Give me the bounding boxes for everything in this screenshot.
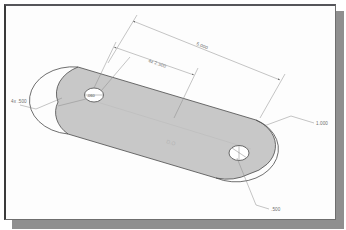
dim-line-overall bbox=[133, 21, 280, 80]
dim-label-hole-spacing: 4x 2.500 bbox=[148, 58, 167, 69]
ext-line-left-overall bbox=[108, 15, 137, 63]
leader-tail-hole-depth bbox=[256, 205, 269, 209]
leader-line-thickness bbox=[264, 116, 291, 126]
cad-drawing-screenshot: 5.000 4x 2.500 4x .500 1.000 bbox=[0, 0, 346, 230]
part-geometry bbox=[29, 67, 278, 182]
drawing-sheet: 5.000 4x 2.500 4x .500 1.000 bbox=[4, 4, 336, 220]
dim-label-hole-depth: .500 bbox=[271, 207, 281, 212]
dim-label-corner-radius: 4x .500 bbox=[11, 99, 27, 104]
leader-tail-corner-radius bbox=[20, 105, 36, 109]
leader-tail-thickness bbox=[291, 116, 314, 123]
leader-corner-radius: 4x .500 bbox=[11, 98, 62, 109]
dim-label-thickness: 1.000 bbox=[316, 121, 328, 126]
drawing-canvas: 5.000 4x 2.500 4x .500 1.000 bbox=[6, 6, 336, 220]
ext-line-right-overall bbox=[260, 74, 285, 118]
leader-thickness: 1.000 bbox=[264, 116, 328, 126]
left-hole-label: .060 bbox=[87, 93, 96, 98]
